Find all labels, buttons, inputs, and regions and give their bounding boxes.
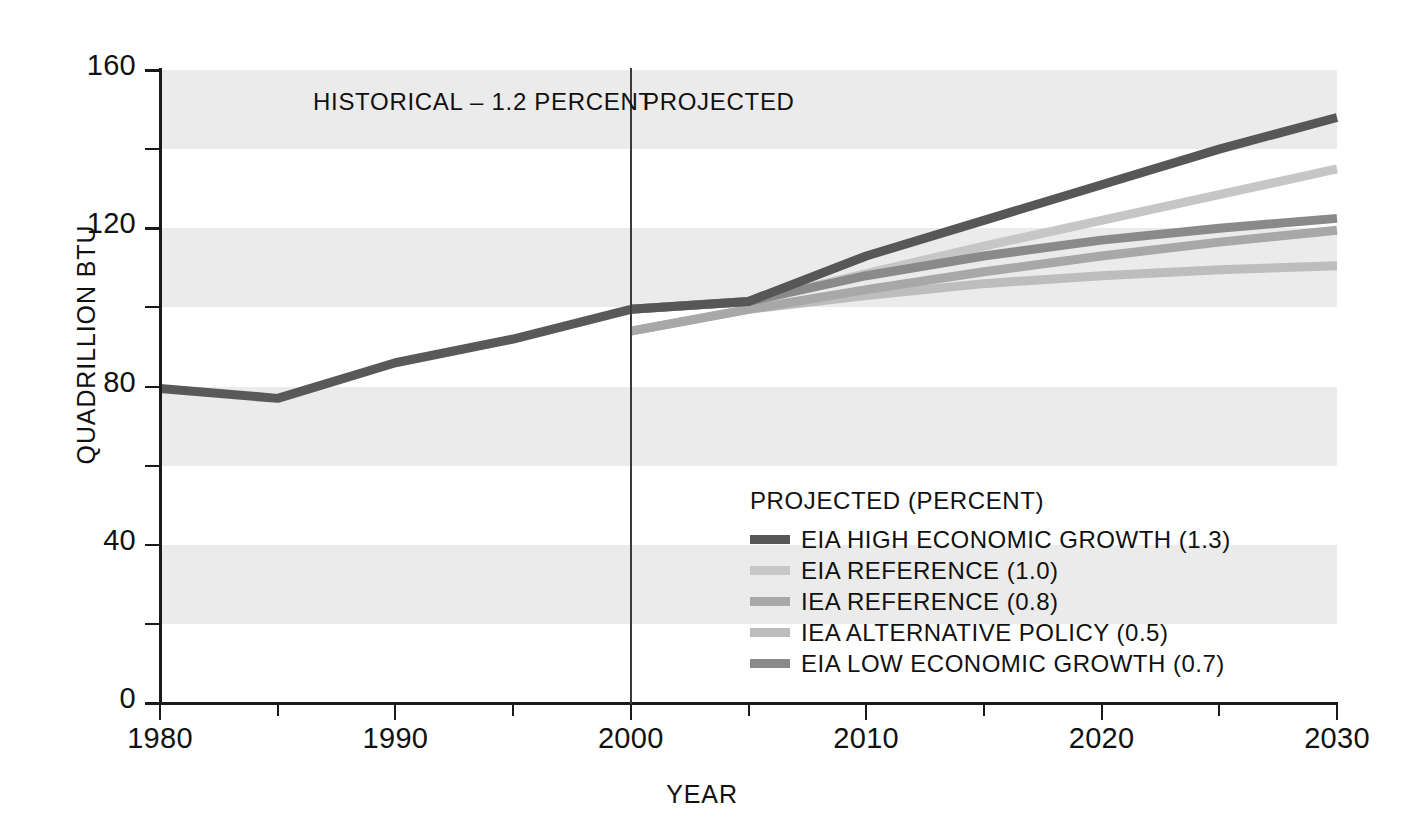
y-tick-major: [145, 227, 159, 230]
x-tick-minor: [748, 705, 750, 716]
y-axis-line: [159, 68, 162, 705]
x-tick-major: [630, 705, 632, 720]
legend-item[interactable]: EIA HIGH ECONOMIC GROWTH (1.3): [750, 524, 1231, 555]
x-tick-major: [159, 705, 161, 720]
legend-title: PROJECTED (PERCENT): [750, 487, 1231, 515]
legend-item[interactable]: IEA ALTERNATIVE POLICY (0.5): [750, 617, 1231, 648]
x-tick-minor: [277, 705, 279, 716]
legend-item-label: EIA HIGH ECONOMIC GROWTH (1.3): [801, 526, 1231, 554]
legend-item-label: IEA REFERENCE (0.8): [801, 588, 1059, 616]
chart-container: 04080120160198019902000201020202030 HIST…: [0, 0, 1404, 831]
legend-swatch-icon: [750, 659, 790, 668]
y-tick-minor: [145, 306, 159, 308]
legend-swatch-icon: [750, 566, 790, 575]
legend-swatch-icon: [750, 535, 790, 544]
x-tick-major: [865, 705, 867, 720]
y-tick-label: 160: [46, 49, 136, 82]
x-tick-label: 2020: [1032, 722, 1172, 755]
series-layer: [0, 0, 1404, 831]
x-tick-major: [394, 705, 396, 720]
legend-swatch-icon: [750, 628, 790, 637]
legend-item-label: EIA REFERENCE (1.0): [801, 557, 1059, 585]
y-tick-minor: [145, 148, 159, 150]
legend-items: EIA HIGH ECONOMIC GROWTH (1.3)EIA REFERE…: [750, 524, 1231, 679]
y-tick-label: 40: [46, 524, 136, 557]
y-tick-minor: [145, 623, 159, 625]
y-tick-major: [145, 702, 159, 705]
x-tick-label: 2010: [796, 722, 936, 755]
projection-divider: [630, 68, 632, 704]
legend-item-label: EIA LOW ECONOMIC GROWTH (0.7): [801, 650, 1225, 678]
legend: PROJECTED (PERCENT) EIA HIGH ECONOMIC GR…: [750, 487, 1231, 679]
y-axis-title: QUADRILLION BTU: [72, 185, 101, 505]
y-tick-label: 0: [46, 682, 136, 715]
legend-item[interactable]: EIA LOW ECONOMIC GROWTH (0.7): [750, 648, 1231, 679]
x-tick-label: 2000: [561, 722, 701, 755]
historical-label: HISTORICAL – 1.2 PERCENT: [313, 88, 654, 116]
series-line: [160, 309, 631, 398]
x-tick-minor: [512, 705, 514, 716]
legend-item[interactable]: IEA REFERENCE (0.8): [750, 586, 1231, 617]
x-tick-label: 1990: [325, 722, 465, 755]
legend-swatch-icon: [750, 597, 790, 606]
x-tick-minor: [1218, 705, 1220, 716]
series-line: [631, 218, 1337, 309]
x-tick-minor: [983, 705, 985, 716]
x-tick-label: 1980: [90, 722, 230, 755]
y-tick-minor: [145, 465, 159, 467]
y-tick-major: [145, 69, 159, 72]
x-tick-label: 2030: [1267, 722, 1404, 755]
x-axis-title: YEAR: [0, 780, 1404, 809]
x-tick-major: [1336, 705, 1338, 720]
legend-item-label: IEA ALTERNATIVE POLICY (0.5): [801, 619, 1168, 647]
y-tick-major: [145, 386, 159, 389]
x-tick-major: [1101, 705, 1103, 720]
legend-item[interactable]: EIA REFERENCE (1.0): [750, 555, 1231, 586]
y-tick-major: [145, 544, 159, 547]
projected-label: PROJECTED: [643, 88, 795, 116]
